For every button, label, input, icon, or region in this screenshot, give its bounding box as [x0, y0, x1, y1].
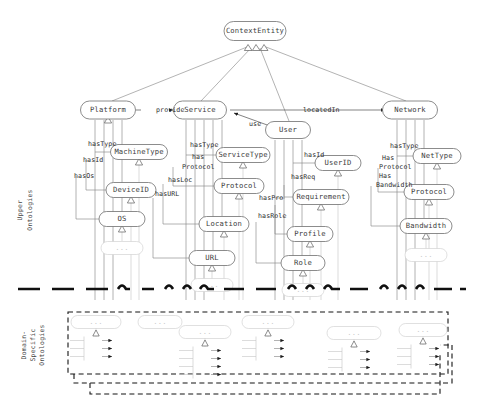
- edge-label-protocol-5: Protocol: [182, 163, 215, 171]
- edge-label-locatedin-1: locatedIn: [303, 106, 340, 114]
- domain-label-line3: Ontologies: [38, 324, 46, 365]
- edge-label-has-13: Has: [382, 154, 394, 162]
- edge-label-hasurl-7: hasURL: [155, 190, 179, 198]
- node-servicetype-label: ServiceType: [218, 150, 267, 159]
- node-role-label: Role: [294, 258, 312, 267]
- domain-node-g4-label: ...: [261, 317, 274, 326]
- edge-label-hasos-2: hasOs: [74, 172, 94, 180]
- node-deviceid-label: DeviceID: [113, 185, 149, 194]
- branch-hasurl-service: [153, 198, 202, 258]
- node-machinetype-label: MachineType: [114, 147, 163, 156]
- entity-nodes: [81, 22, 462, 297]
- node-contextentity-label: ContextEntity: [226, 26, 285, 35]
- edge-label-hastype-12: hasType: [390, 142, 419, 150]
- edge-label-bandwidth-16: Bandwidth: [376, 181, 413, 189]
- node-platform-label: Platform: [90, 105, 126, 114]
- domain-tri-g1: [93, 330, 99, 336]
- domain-label-line1: Domain-: [20, 330, 28, 359]
- domain-node-g2-label: ...: [153, 317, 166, 326]
- domain-node-g1-label: ...: [89, 317, 102, 326]
- node-protocol_s-label: Protocol: [221, 181, 257, 190]
- node-profile-label: Profile: [294, 229, 325, 238]
- domain-specific-section: ..................: [68, 312, 452, 394]
- node-network-label: Network: [394, 105, 426, 114]
- domain-node-g6-label: ...: [416, 325, 429, 334]
- node-nettype-label: NetType: [421, 151, 452, 160]
- domain-feedback-loop-2: [90, 352, 440, 394]
- node-url-label: URL: [205, 253, 218, 262]
- edge-label-hastype-0: hasType: [88, 140, 117, 148]
- domain-label-line2: Specific: [29, 328, 37, 361]
- edge-label-hasreq-9: hasReq: [291, 173, 315, 181]
- node-service-label: Service: [184, 105, 215, 114]
- node-requirement-label: Requirement: [296, 192, 345, 201]
- domain-node-g5-label: ...: [347, 328, 360, 337]
- domain-tri-g5: [351, 341, 357, 347]
- edge-label-protocol-14: Protocol: [379, 163, 412, 171]
- node-bandwidth-label: Bandwidth: [406, 221, 446, 230]
- edge-label-hasid-1: hasId: [83, 156, 103, 164]
- upper-ontologies-label-line2: Ontologies: [26, 189, 34, 230]
- edge-label-use-2: use: [249, 120, 261, 128]
- node-os-label: OS: [118, 214, 127, 223]
- edge-label-provide-0: provide: [156, 106, 185, 114]
- entity-node-labels: ContextEntityPlatformServiceUserNetworkM…: [90, 26, 453, 294]
- edge-label-hasid-8: hasId: [304, 151, 324, 159]
- node-ell-os-label: ...: [115, 243, 128, 252]
- upper-ontologies-label-line1: Upper: [16, 200, 24, 221]
- node-userid-label: UserID: [325, 158, 352, 167]
- edge-label-hastype-3: hasType: [190, 141, 219, 149]
- edge-label-hasloc-6: hasLoc: [168, 176, 192, 184]
- edge-label-has-15: Has: [379, 172, 391, 180]
- ontology-diagram: ContextEntityPlatformServiceUserNetworkM…: [0, 0, 479, 413]
- upper-domain-separator: [18, 286, 466, 290]
- domain-node-g3-label: ...: [198, 327, 211, 336]
- node-location-label: Location: [206, 219, 242, 228]
- subclass-marker-2: [252, 45, 260, 51]
- diagram-canvas: ContextEntityPlatformServiceUserNetworkM…: [0, 0, 479, 413]
- node-user-label: User: [279, 125, 297, 134]
- layer-separator: [18, 286, 466, 290]
- node-protocol_n-label: Protocol: [411, 187, 447, 196]
- domain-tri-g6: [420, 338, 426, 344]
- edge-service-to-root: [201, 48, 251, 101]
- domain-feedback-loop-1: [74, 345, 452, 383]
- domain-tri-g4: [265, 330, 271, 336]
- edge-label-haspro-10: hasPro: [259, 194, 283, 202]
- edge-network-to-root: [266, 47, 406, 101]
- edge-label-has-4: has: [192, 153, 204, 161]
- domain-tri-g3: [202, 340, 208, 346]
- layer-side-labels: Upper Ontologies Domain- Specific Ontolo…: [16, 189, 46, 365]
- domain-group-shapes: ..................: [70, 316, 447, 379]
- node-ell-bandwidth-label: ...: [419, 250, 432, 259]
- edge-label-hasrole-11: hasRole: [258, 212, 287, 220]
